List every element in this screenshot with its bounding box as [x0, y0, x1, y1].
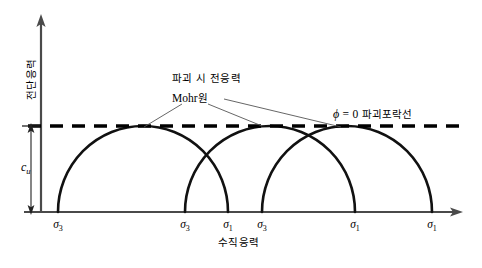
leader-line-3 [224, 99, 341, 127]
x-axis [24, 207, 463, 216]
leader-line-2 [208, 104, 262, 126]
tick-symbol: σ [223, 218, 229, 230]
equals-symbol: = [343, 108, 350, 120]
tick-symbol: σ [350, 218, 356, 230]
figure-canvas [0, 0, 482, 268]
mohr-circle-3 [262, 126, 432, 212]
failure-envelope-text: 파괴포락선 [362, 108, 412, 120]
x-axis-title: 수직응력 [218, 237, 259, 248]
tick-label-sigma3-b: σ3 [175, 219, 195, 231]
tick-subscript: 3 [59, 224, 63, 233]
tick-symbol: σ [180, 218, 186, 230]
tick-subscript: 3 [186, 224, 190, 233]
phi-symbol: ϕ [333, 107, 339, 121]
tick-label-sigma3-c: σ3 [252, 219, 272, 231]
mohr-circles [58, 126, 432, 212]
cohesion-label: cu [21, 161, 31, 173]
leader-line-1 [144, 104, 182, 127]
mohr-circle-figure: 전단응력 수직응력 파괴 시 전응력 Mohr원 ϕ = 0 파괴포락선 cu … [0, 0, 482, 268]
annotation-mohr-hangul: 원 [198, 92, 208, 104]
y-axis-title: 전단응력 [26, 58, 37, 100]
tick-symbol: σ [53, 218, 59, 230]
tick-subscript: 1 [356, 224, 360, 233]
annotation-line-1: 파괴 시 전응력 [172, 73, 241, 84]
tick-label-sigma3-a: σ3 [48, 219, 68, 231]
phi-value: 0 [352, 108, 358, 120]
tick-label-sigma1-b: σ1 [345, 219, 365, 231]
annotation-line-2: Mohr원 [172, 89, 208, 105]
cohesion-subscript: u [26, 166, 30, 176]
tick-subscript: 1 [229, 224, 233, 233]
mohr-circle-2 [185, 126, 355, 212]
tick-subscript: 1 [433, 224, 437, 233]
mohr-circle-1 [58, 126, 228, 212]
tick-label-sigma1-a: σ1 [218, 219, 238, 231]
failure-envelope-label: ϕ = 0 파괴포락선 [333, 108, 412, 121]
tick-label-sigma1-c: σ1 [422, 219, 442, 231]
y-axis [36, 14, 45, 212]
tick-symbol: σ [257, 218, 263, 230]
tick-symbol: σ [427, 218, 433, 230]
annotation-mohr-latin: Mohr [172, 92, 198, 104]
tick-subscript: 3 [263, 224, 267, 233]
